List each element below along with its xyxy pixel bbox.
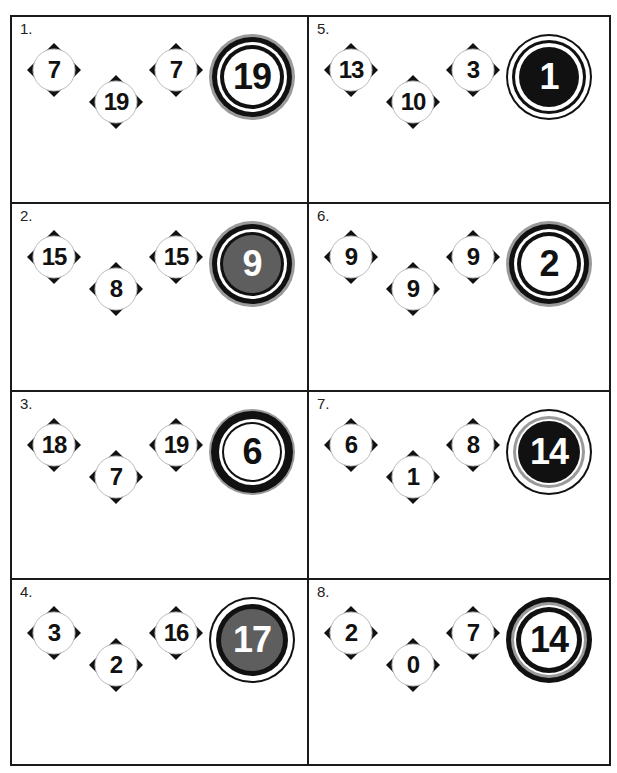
puzzle-number: 3. (20, 395, 33, 412)
diamond-number-tile: 9 (385, 261, 441, 317)
diamond-value: 3 (445, 42, 501, 98)
diamond-number-tile: 7 (26, 42, 82, 98)
diamond-value: 9 (385, 261, 441, 317)
puzzle-number: 7. (317, 395, 330, 412)
diamond-value: 0 (385, 637, 441, 693)
diamond-value: 9 (323, 229, 379, 285)
target-circle: 2 (505, 220, 593, 308)
puzzle-number: 8. (317, 583, 330, 600)
target-circle: 1 (505, 33, 593, 121)
diamond-number-tile: 0 (385, 637, 441, 693)
diamond-number-tile: 9 (445, 229, 501, 285)
diamond-value: 2 (323, 605, 379, 661)
puzzle-sheet: 1.7197192.1581593.1871964.3216175.131031… (10, 15, 611, 766)
puzzle-cell: 6.9992 (309, 204, 609, 392)
puzzle-cell: 5.131031 (309, 17, 609, 204)
target-value: 1 (505, 33, 593, 121)
diamond-number-tile: 7 (445, 605, 501, 661)
target-value: 14 (505, 596, 593, 684)
puzzle-cell: 3.187196 (12, 392, 309, 580)
diamond-value: 8 (88, 261, 144, 317)
target-circle: 9 (208, 220, 296, 308)
diamond-value: 10 (385, 74, 441, 130)
diamond-value: 9 (445, 229, 501, 285)
diamond-number-tile: 2 (323, 605, 379, 661)
target-value: 6 (208, 408, 296, 496)
diamond-value: 7 (26, 42, 82, 98)
puzzle-number: 6. (317, 207, 330, 224)
diamond-number-tile: 8 (445, 417, 501, 473)
diamond-value: 7 (88, 449, 144, 505)
diamond-number-tile: 7 (88, 449, 144, 505)
diamond-number-tile: 15 (148, 229, 204, 285)
diamond-number-tile: 6 (323, 417, 379, 473)
target-value: 17 (208, 596, 296, 684)
puzzle-number: 4. (20, 583, 33, 600)
diamond-value: 19 (88, 74, 144, 130)
target-value: 14 (505, 408, 593, 496)
diamond-value: 15 (148, 229, 204, 285)
puzzle-grid: 1.7197192.1581593.1871964.3216175.131031… (12, 17, 609, 764)
diamond-value: 1 (385, 449, 441, 505)
puzzle-cell: 7.61814 (309, 392, 609, 580)
diamond-number-tile: 3 (445, 42, 501, 98)
diamond-number-tile: 7 (148, 42, 204, 98)
diamond-value: 18 (26, 417, 82, 473)
diamond-number-tile: 3 (26, 605, 82, 661)
diamond-number-tile: 2 (88, 637, 144, 693)
diamond-number-tile: 19 (88, 74, 144, 130)
target-value: 2 (505, 220, 593, 308)
puzzle-cell: 4.321617 (12, 580, 309, 764)
diamond-number-tile: 9 (323, 229, 379, 285)
diamond-value: 19 (148, 417, 204, 473)
diamond-number-tile: 15 (26, 229, 82, 285)
target-circle: 14 (505, 408, 593, 496)
target-circle: 17 (208, 596, 296, 684)
diamond-number-tile: 18 (26, 417, 82, 473)
puzzle-cell: 2.158159 (12, 204, 309, 392)
diamond-number-tile: 1 (385, 449, 441, 505)
diamond-value: 3 (26, 605, 82, 661)
diamond-number-tile: 19 (148, 417, 204, 473)
puzzle-number: 2. (20, 207, 33, 224)
diamond-number-tile: 13 (323, 42, 379, 98)
diamond-value: 7 (148, 42, 204, 98)
diamond-value: 7 (445, 605, 501, 661)
target-circle: 19 (208, 33, 296, 121)
target-circle: 6 (208, 408, 296, 496)
puzzle-cell: 8.20714 (309, 580, 609, 764)
target-value: 9 (208, 220, 296, 308)
diamond-value: 8 (445, 417, 501, 473)
diamond-value: 6 (323, 417, 379, 473)
puzzle-cell: 1.719719 (12, 17, 309, 204)
diamond-value: 2 (88, 637, 144, 693)
target-circle: 14 (505, 596, 593, 684)
puzzle-number: 5. (317, 20, 330, 37)
diamond-value: 16 (148, 605, 204, 661)
diamond-value: 13 (323, 42, 379, 98)
diamond-number-tile: 8 (88, 261, 144, 317)
puzzle-number: 1. (20, 20, 33, 37)
diamond-number-tile: 16 (148, 605, 204, 661)
diamond-number-tile: 10 (385, 74, 441, 130)
diamond-value: 15 (26, 229, 82, 285)
target-value: 19 (208, 33, 296, 121)
